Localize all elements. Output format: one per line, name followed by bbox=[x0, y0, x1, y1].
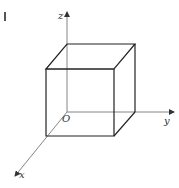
cube-top-face bbox=[46, 44, 135, 69]
z-axis-label: z bbox=[57, 10, 64, 21]
cube bbox=[46, 44, 135, 136]
cube-bottom-right-edge bbox=[114, 112, 135, 136]
origin-label: O bbox=[62, 113, 70, 124]
x-axis bbox=[15, 112, 67, 176]
axes bbox=[15, 12, 174, 176]
x-axis-label: x bbox=[19, 169, 25, 180]
y-axis-label: y bbox=[163, 115, 170, 126]
cube-diagram: z O y x bbox=[0, 0, 179, 188]
corner-mark bbox=[4, 12, 6, 21]
